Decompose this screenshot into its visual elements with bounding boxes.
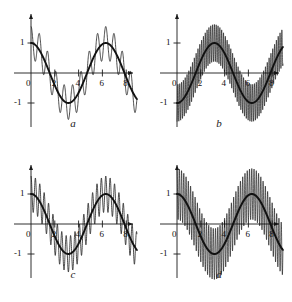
panel-caption-c: c [0, 268, 146, 280]
y-tick-label-top: -1 [160, 98, 168, 107]
chart-panel-c: 024681-1 c [0, 151, 146, 302]
y-tick-label-bottom: -1 [14, 98, 22, 107]
panel-caption-a: a [0, 117, 146, 129]
x-tick-label-4: 4 [76, 79, 81, 88]
chart-panel-d: 024681-1 d [146, 151, 292, 302]
y-tick-label-bottom: -1 [160, 249, 168, 258]
x-tick-label-6: 6 [245, 230, 250, 239]
x-tick-label-2: 2 [198, 79, 203, 88]
x-tick-label-0: 0 [26, 230, 31, 239]
x-tick-label-8: 8 [269, 230, 274, 239]
y-axis-arrow [29, 165, 33, 170]
y-tick-label-bottom: -1 [14, 249, 22, 258]
x-tick-label-8: 8 [269, 79, 274, 88]
y-tick-label-top: 1 [166, 189, 171, 198]
chart-panel-b: 02468-11 b [146, 0, 292, 151]
x-tick-label-2: 2 [52, 79, 57, 88]
x-tick-label-2: 2 [198, 230, 203, 239]
x-tick-label-4: 4 [222, 230, 227, 239]
x-tick-label-8: 8 [123, 230, 128, 239]
y-axis-arrow [175, 14, 179, 19]
x-tick-label-8: 8 [123, 79, 128, 88]
x-tick-label-0: 0 [26, 79, 31, 88]
figure-panel-grid: 024681-1 a 02468-11 b [0, 0, 292, 302]
y-tick-label-top: 1 [20, 189, 25, 198]
x-tick-label-6: 6 [245, 79, 250, 88]
x-tick-label-4: 4 [76, 230, 81, 239]
x-tick-label-0: 0 [172, 79, 177, 88]
chart-panel-a: 024681-1 a [0, 0, 146, 151]
x-tick-label-0: 0 [172, 230, 177, 239]
y-axis-arrow [29, 14, 33, 19]
series-oscillation-b [177, 24, 283, 121]
x-tick-label-4: 4 [222, 79, 227, 88]
x-tick-label-6: 6 [99, 230, 104, 239]
y-tick-label-bottom: 1 [166, 38, 171, 47]
x-axis-arrow [274, 71, 279, 75]
panel-caption-d: d [146, 268, 292, 280]
panel-caption-b: b [146, 117, 292, 129]
x-tick-label-6: 6 [99, 79, 104, 88]
y-tick-label-top: 1 [20, 38, 25, 47]
x-tick-label-2: 2 [52, 230, 57, 239]
